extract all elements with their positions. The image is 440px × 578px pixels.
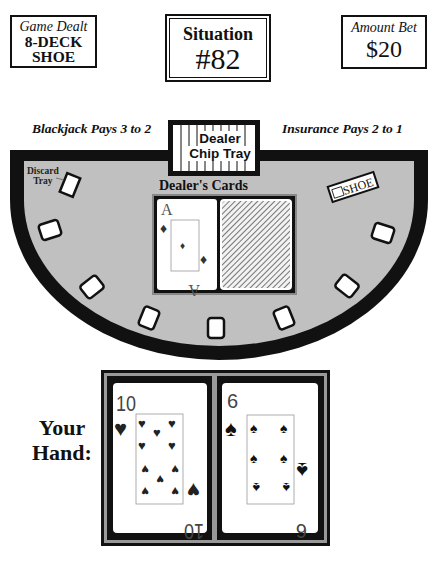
- svg-text:♦: ♦: [180, 240, 185, 251]
- svg-text:♠: ♠: [296, 458, 308, 483]
- svg-text:♥: ♥: [141, 484, 149, 499]
- svg-text:♥: ♥: [187, 478, 200, 503]
- svg-text:♥: ♥: [171, 462, 179, 477]
- deck-count: 8-DECK: [12, 34, 95, 49]
- svg-text:♦: ♦: [200, 251, 207, 267]
- bet-box: Amount Bet $20: [341, 15, 427, 69]
- betting-spot-4: [208, 318, 224, 338]
- svg-text:♥: ♥: [138, 416, 146, 431]
- svg-text:♠: ♠: [252, 480, 260, 496]
- svg-text:♠: ♠: [282, 480, 290, 496]
- svg-text:10: 10: [116, 391, 136, 416]
- dealer-cards-area: A ♦ ♦ ♦ A: [152, 194, 297, 299]
- insurance-payout-rule: Insurance Pays 2 to 1: [282, 121, 403, 137]
- svg-text:♥: ♥: [168, 438, 176, 453]
- svg-text:6: 6: [296, 520, 307, 542]
- your-hand-label: Your Hand:: [32, 415, 92, 465]
- svg-text:♠: ♠: [280, 420, 288, 436]
- svg-text:♠: ♠: [225, 416, 237, 441]
- svg-text:♥: ♥: [141, 462, 149, 477]
- svg-text:♥: ♥: [168, 416, 176, 431]
- deck-info-box: Game Dealt 8-DECK SHOE: [10, 15, 97, 68]
- discard-tray-label: Discard Tray: [27, 166, 59, 186]
- svg-text:♥: ♥: [171, 484, 179, 499]
- svg-text:♥: ♥: [153, 425, 161, 440]
- svg-text:A: A: [188, 282, 200, 299]
- chip-tray-label: Dealer Chip Tray: [180, 131, 260, 161]
- deck-type: SHOE: [12, 49, 95, 64]
- svg-text:6: 6: [227, 390, 238, 412]
- svg-text:♦: ♦: [160, 220, 167, 236]
- dealer-cards-label: Dealer's Cards: [159, 178, 248, 194]
- bet-label: Amount Bet: [343, 20, 425, 36]
- svg-text:10: 10: [184, 519, 204, 544]
- svg-text:♥: ♥: [156, 472, 164, 487]
- blackjack-table: SHOE A ♦ ♦ ♦ A 10 ♥ ♥♥ ♥: [0, 0, 440, 578]
- situation-label: Situation: [170, 19, 266, 44]
- svg-text:A: A: [161, 201, 173, 218]
- svg-text:♠: ♠: [250, 420, 258, 436]
- svg-text:♥: ♥: [114, 416, 127, 441]
- svg-text:♠: ♠: [250, 450, 258, 466]
- situation-number: #82: [170, 44, 266, 74]
- blackjack-payout-rule: Blackjack Pays 3 to 2: [32, 121, 151, 137]
- svg-text:♥: ♥: [138, 438, 146, 453]
- situation-box: Situation #82: [165, 14, 271, 82]
- player-hand-area: 10 ♥ ♥♥ ♥ ♥♥ ♥♥ ♥ ♥♥ ♥ 10 6 ♠ ♠♠ ♠♠ ♠♠ ♠…: [101, 370, 330, 546]
- svg-text:♠: ♠: [280, 450, 288, 466]
- bet-amount: $20: [343, 36, 425, 62]
- deck-info-label: Game Dealt: [12, 19, 95, 34]
